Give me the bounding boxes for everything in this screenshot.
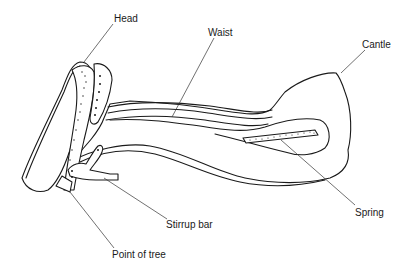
label-spring: Spring (355, 207, 384, 218)
leader-head (84, 24, 113, 62)
label-head: Head (114, 13, 138, 24)
leader-stirrup-bar (104, 178, 167, 219)
leader-point-of-tree (70, 192, 114, 248)
label-waist: Waist (208, 27, 233, 38)
saddle-tree-diagram: Head Waist Cantle Spring Stirrup bar Poi… (0, 0, 412, 278)
label-point-of-tree: Point of tree (112, 249, 166, 260)
leader-cantle (341, 50, 365, 73)
leader-waist (172, 38, 214, 117)
tree-body (70, 73, 351, 186)
label-stirrup-bar: Stirrup bar (166, 219, 213, 230)
label-cantle: Cantle (362, 39, 391, 50)
